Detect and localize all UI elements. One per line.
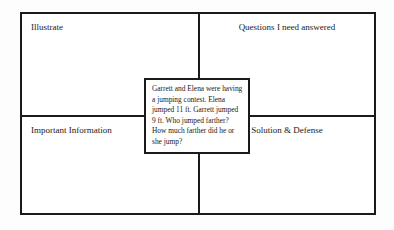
diagram-canvas: Illustrate Questions I need answered Imp… xyxy=(0,0,394,230)
quadrant-label-questions: Questions I need answered xyxy=(200,23,374,33)
quadrant-label-illustrate: Illustrate xyxy=(31,23,63,33)
center-problem-box: Garrett and Elena were having a jumping … xyxy=(144,78,250,154)
quadrant-label-important-information: Important Information xyxy=(31,126,112,136)
problem-statement-text: Garrett and Elena were having a jumping … xyxy=(152,84,243,148)
